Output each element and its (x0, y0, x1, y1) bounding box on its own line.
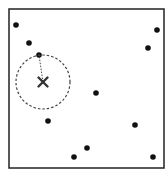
data-point (132, 122, 138, 128)
data-point (71, 154, 77, 160)
data-points (13, 22, 160, 160)
data-point (26, 40, 32, 46)
data-point (93, 90, 99, 96)
data-point (45, 118, 51, 124)
data-point (84, 145, 90, 151)
diagram-canvas (0, 0, 168, 176)
data-point (13, 22, 19, 28)
diagram-frame (9, 9, 164, 168)
data-point (154, 27, 160, 33)
data-point (150, 154, 156, 160)
data-point (145, 45, 151, 51)
